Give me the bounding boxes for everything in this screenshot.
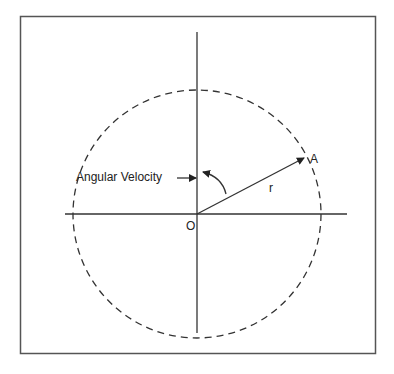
frame	[21, 17, 376, 354]
rotation-arc-arrow	[203, 172, 226, 194]
point-a-label: A	[310, 153, 318, 165]
angular-velocity-label: Angular Velocity	[76, 171, 162, 183]
radius-label: r	[269, 182, 273, 194]
angular-velocity-diagram	[0, 0, 394, 374]
radius-vector	[197, 158, 304, 214]
origin-label: O	[186, 220, 195, 232]
